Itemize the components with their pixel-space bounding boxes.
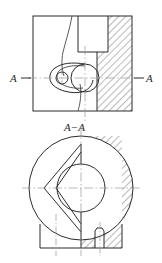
- section-view-aa: [22, 125, 142, 256]
- section-view-title: A−A: [63, 121, 85, 133]
- section-marker-right-label: A: [145, 72, 153, 84]
- section-marker-left-label: A: [9, 72, 17, 84]
- drawing-canvas: A A A−A: [0, 0, 162, 263]
- engineering-drawing-sheet: A A A−A: [0, 0, 162, 263]
- top-view: [28, 10, 140, 122]
